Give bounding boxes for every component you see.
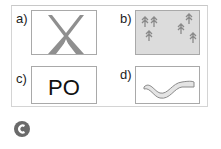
- forest-icon: [136, 11, 199, 54]
- panel-b-label: b): [120, 12, 132, 25]
- c-badge-icon: [14, 121, 30, 137]
- river-icon: [136, 67, 199, 103]
- tent-icon: [32, 11, 96, 54]
- panel-c-box: PO: [31, 66, 97, 104]
- panel-b-box: [135, 10, 200, 55]
- panel-a-box: [31, 10, 97, 55]
- panel-c-label: c): [16, 72, 27, 85]
- panel-d-label: d): [120, 68, 132, 81]
- panel-d-box: [135, 66, 200, 104]
- post-office-text: PO: [32, 75, 96, 101]
- panel-a-label: a): [16, 12, 28, 25]
